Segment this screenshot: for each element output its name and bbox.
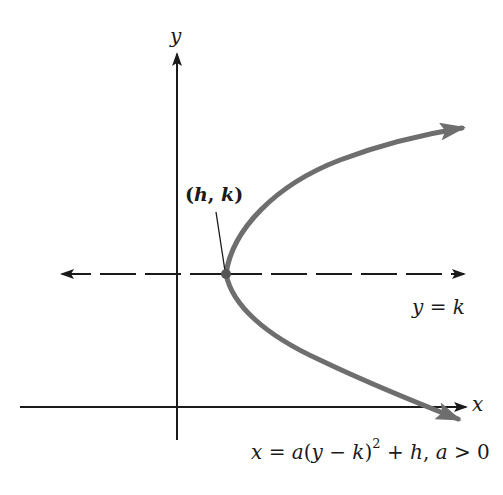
eq-y: y [312, 440, 323, 464]
vertex-pointer-line [216, 212, 225, 271]
vertex-label-close: ) [234, 183, 243, 205]
vertex-label: (h, k) [185, 185, 243, 204]
y-axis-label: y [170, 26, 181, 46]
eq-exponent: 2 [372, 436, 380, 451]
eq-a-condition: a [436, 440, 448, 464]
vertex-label-h: h [194, 183, 208, 205]
axis-label-eq: = [423, 295, 452, 319]
axis-of-symmetry-label: y = k [412, 297, 465, 317]
parabola-figure: y x (h, k) y = k x = a(y − k)2 + h, a > … [0, 0, 503, 495]
eq-comma: , [423, 440, 436, 464]
diagram-canvas [0, 0, 503, 495]
vertex-label-k: k [221, 183, 234, 205]
eq-k: k [352, 440, 364, 464]
vertex-label-open: ( [185, 183, 194, 205]
eq-minus: − [323, 440, 352, 464]
eq-plus: + [381, 440, 410, 464]
eq-a: a [292, 440, 304, 464]
eq-equals: = [262, 440, 291, 464]
parabola-equation: x = a(y − k)2 + h, a > 0 [251, 440, 490, 462]
eq-h: h [410, 440, 423, 464]
vertex-label-sep: , [208, 183, 221, 205]
axis-label-var: y [412, 295, 423, 319]
eq-open-paren: ( [304, 440, 312, 464]
eq-lhs: x [251, 440, 262, 464]
axis-label-val: k [453, 295, 465, 319]
x-axis-label: x [472, 394, 483, 414]
eq-condition: > 0 [448, 440, 490, 464]
vertex-point [221, 269, 231, 279]
parabola-upper-branch [226, 128, 462, 274]
